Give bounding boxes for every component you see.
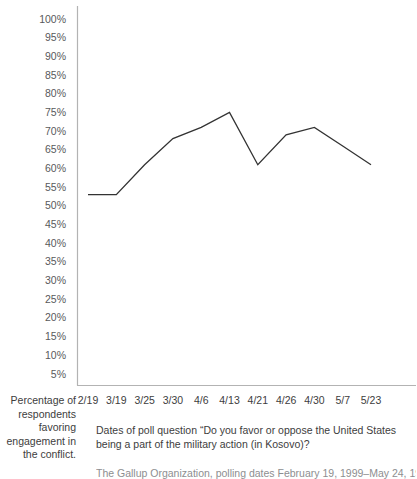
x-tick-label: 5/23	[361, 394, 381, 407]
x-tick-label: 4/26	[276, 394, 296, 407]
x-tick-label: 4/13	[219, 394, 239, 407]
x-tick-label: 3/19	[106, 394, 126, 407]
question-caption: Dates of poll question “Do you favor or …	[96, 423, 414, 451]
x-tick-label: 3/25	[134, 394, 154, 407]
x-tick-label: 5/7	[335, 394, 350, 407]
data-line	[0, 0, 417, 392]
x-tick-label: 4/21	[248, 394, 268, 407]
poll-line-chart-figure: 100%95%90%85%80%75%70%65%60%55%50%45%40%…	[0, 0, 417, 479]
source-note: The Gallup Organization, polling dates F…	[96, 466, 416, 479]
x-tick-label: 2/19	[78, 394, 98, 407]
y-axis-caption: Percentage of respondents favoring engag…	[2, 394, 76, 462]
plot-area: 100%95%90%85%80%75%70%65%60%55%50%45%40%…	[0, 0, 417, 392]
x-tick-label: 3/30	[163, 394, 183, 407]
x-tick-label: 4/30	[304, 394, 324, 407]
x-tick-label: 4/6	[194, 394, 209, 407]
